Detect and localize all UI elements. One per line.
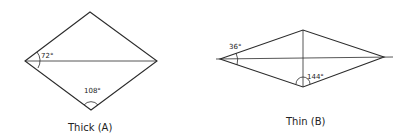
thick-caption: Thick (A) xyxy=(67,122,112,133)
thin-angle-36-label: 36° xyxy=(229,43,241,51)
thin-angle-144-label: 144° xyxy=(307,73,324,81)
thick-angle-108-label: 108° xyxy=(84,87,101,95)
thick-angle-72-label: 72° xyxy=(41,52,53,60)
rhombus-diagram: 72° 108° Thick (A) 36° 144° Thin (B) xyxy=(0,0,410,134)
thick-angle-arc-left xyxy=(37,52,40,68)
thick-rhombus: 72° 108° Thick (A) xyxy=(25,12,157,133)
thick-angle-arc-bottom xyxy=(84,102,98,105)
thin-horizontal-diagonal xyxy=(216,57,393,59)
thin-caption: Thin (B) xyxy=(285,116,326,127)
thin-rhombus: 36° 144° Thin (B) xyxy=(216,30,393,127)
